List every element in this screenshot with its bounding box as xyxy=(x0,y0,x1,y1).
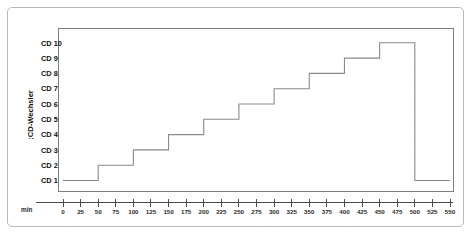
x-tick-label: 225 xyxy=(216,208,227,215)
chart-canvas: :CD-Wechsler CD 10 CD 9 CD 8 CD 7 CD 6 C… xyxy=(0,0,473,236)
x-tick-label: 275 xyxy=(251,208,262,215)
x-tick-label: 150 xyxy=(163,208,174,215)
x-tick-label: 525 xyxy=(427,208,438,215)
y-tick-label: CD 2 xyxy=(41,161,58,170)
x-tick-label: 50 xyxy=(95,208,102,215)
cd-wechsler-step-chart: :CD-Wechsler CD 10 CD 9 CD 8 CD 7 CD 6 C… xyxy=(0,0,473,236)
y-tick-label: CD 5 xyxy=(41,115,58,124)
x-tick-label: 375 xyxy=(322,208,333,215)
y-tick-label: CD 10 xyxy=(41,39,62,48)
y-tick-label: CD 4 xyxy=(41,130,59,139)
x-tick-label: 75 xyxy=(112,208,119,215)
x-axis-unit-label: min xyxy=(21,206,32,213)
cd-wechsler-step-line xyxy=(63,43,450,181)
y-axis-title: :CD-Wechsler xyxy=(26,90,35,140)
y-tick-label: CD 9 xyxy=(41,54,58,63)
x-axis-tick-labels: 0255075100125150175200225250275300325350… xyxy=(61,208,455,215)
x-tick-label: 175 xyxy=(181,208,192,215)
x-tick-label: 300 xyxy=(269,208,280,215)
x-tick-label: 200 xyxy=(199,208,210,215)
x-tick-label: 125 xyxy=(146,208,157,215)
x-tick-label: 425 xyxy=(357,208,368,215)
y-tick-label: CD 7 xyxy=(41,84,58,93)
x-tick-label: 400 xyxy=(339,208,350,215)
x-tick-label: 25 xyxy=(77,208,84,215)
y-tick-label: CD 8 xyxy=(41,69,58,78)
plot-area-border xyxy=(59,29,454,192)
x-tick-label: 500 xyxy=(410,208,421,215)
x-tick-label: 100 xyxy=(128,208,139,215)
x-tick-label: 325 xyxy=(287,208,298,215)
y-tick-label: CD 6 xyxy=(41,100,58,109)
x-tick-label: 250 xyxy=(234,208,245,215)
y-tick-label: CD 3 xyxy=(41,146,58,155)
x-tick-label: 450 xyxy=(374,208,385,215)
x-tick-label: 475 xyxy=(392,208,403,215)
x-tick-label: 550 xyxy=(445,208,456,215)
x-tick-label: 350 xyxy=(304,208,315,215)
y-tick-label: CD 1 xyxy=(41,176,58,185)
x-tick-label: 0 xyxy=(61,208,65,215)
